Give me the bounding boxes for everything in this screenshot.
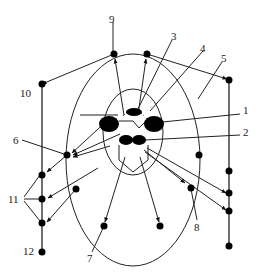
label-5: 5 <box>221 53 227 64</box>
label-9: 9 <box>109 14 115 25</box>
outer-ellipse <box>66 54 200 266</box>
twin-blob-right <box>132 135 146 145</box>
node-11a <box>39 172 46 179</box>
label-8: 8 <box>194 222 200 233</box>
label-1: 1 <box>243 105 249 116</box>
label-3: 3 <box>171 31 177 42</box>
label-7: 7 <box>87 253 93 264</box>
node-outer-left <box>73 186 80 193</box>
label-12: 12 <box>23 246 34 257</box>
left-blob <box>99 116 119 132</box>
label-6: 6 <box>13 135 19 146</box>
node-bottom-right <box>157 223 164 230</box>
node-right-1 <box>226 168 233 175</box>
label-10: 10 <box>20 88 31 99</box>
twin-blob-left <box>119 135 133 145</box>
inner-v-shape <box>119 121 146 128</box>
top-blob <box>126 108 142 116</box>
node-right-3 <box>226 208 233 215</box>
node-top-left <box>111 51 118 58</box>
right-blob <box>144 116 164 132</box>
node-10 <box>39 81 46 88</box>
node-11b <box>39 196 46 203</box>
schematic-diagram <box>0 0 258 275</box>
label-11: 11 <box>8 194 19 205</box>
node-right-top <box>226 77 233 84</box>
node-right-2 <box>226 190 233 197</box>
label-4: 4 <box>200 43 206 54</box>
node-outer-right <box>196 152 203 159</box>
node-6 <box>64 152 71 159</box>
node-12 <box>39 249 46 256</box>
node-8 <box>188 185 195 192</box>
node-7 <box>101 223 108 230</box>
node-top-right <box>144 51 151 58</box>
label-2: 2 <box>243 127 249 138</box>
node-11c <box>39 220 46 227</box>
node-right-bottom <box>226 243 233 250</box>
